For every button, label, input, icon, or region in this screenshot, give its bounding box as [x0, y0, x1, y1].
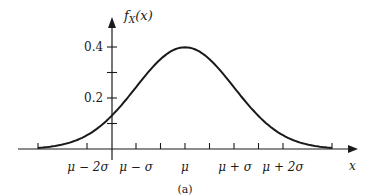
x-axis-ticks [38, 143, 332, 149]
figure-caption: (a) [177, 183, 192, 196]
y-axis [107, 17, 117, 160]
y-axis-label-argument: (x) [135, 8, 152, 23]
x-tick-label-mu-minus-sigma: μ − σ [119, 160, 153, 174]
y-tick-label-0-2: 0.2 [84, 91, 103, 105]
y-axis-arrow-icon [108, 17, 116, 28]
x-axis-arrow-icon [348, 145, 358, 153]
y-tick-label-0-4: 0.4 [84, 40, 103, 54]
x-tick-label-mu-plus-2sigma: μ + 2σ [262, 160, 304, 174]
y-axis-label: fX(x) [123, 8, 153, 25]
density-curve [38, 47, 332, 148]
x-tick-label-mu-minus-2sigma: μ − 2σ [67, 160, 109, 174]
x-tick-label-mu: μ [181, 160, 189, 174]
normal-distribution-figure: fX(x) 0.4 0.2 μ − 2σ μ − σ μ μ + σ μ + 2… [0, 0, 370, 196]
x-axis-label: x [349, 159, 356, 173]
x-tick-label-mu-plus-sigma: μ + σ [218, 160, 252, 174]
